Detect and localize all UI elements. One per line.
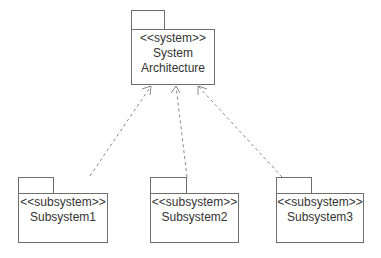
- package-tab: [276, 177, 312, 194]
- package-name: Subsystem3: [277, 210, 363, 225]
- package-name-line1: System: [132, 46, 214, 61]
- arrowhead-1-icon: [142, 86, 151, 95]
- package-body: <<subsystem>> Subsystem2: [150, 193, 239, 243]
- package-tab: [150, 177, 187, 194]
- package-subsystem3[interactable]: <<subsystem>> Subsystem3: [276, 177, 364, 243]
- package-body: <<subsystem>> Subsystem1: [18, 193, 108, 243]
- stereotype-label: <<system>>: [132, 31, 214, 46]
- dependency-line-2: [176, 86, 187, 177]
- package-subsystem1[interactable]: <<subsystem>> Subsystem1: [18, 177, 108, 243]
- package-body: <<subsystem>> Subsystem3: [276, 193, 364, 243]
- package-tab: [131, 10, 165, 30]
- package-tab: [18, 177, 54, 194]
- package-name-line2: Architecture: [132, 61, 214, 76]
- stereotype-label: <<subsystem>>: [19, 195, 107, 210]
- dependency-line-1: [90, 86, 151, 176]
- dependency-line-3: [198, 86, 282, 177]
- package-name: Subsystem2: [151, 210, 238, 225]
- diagram-canvas: <<system>> System Architecture <<subsyst…: [0, 0, 381, 258]
- stereotype-label: <<subsystem>>: [277, 195, 363, 210]
- stereotype-label: <<subsystem>>: [151, 195, 238, 210]
- package-system-architecture[interactable]: <<system>> System Architecture: [131, 10, 215, 85]
- package-subsystem2[interactable]: <<subsystem>> Subsystem2: [150, 177, 239, 243]
- package-body: <<system>> System Architecture: [131, 29, 215, 85]
- package-name: Subsystem1: [19, 210, 107, 225]
- arrowhead-2-icon: [171, 86, 180, 93]
